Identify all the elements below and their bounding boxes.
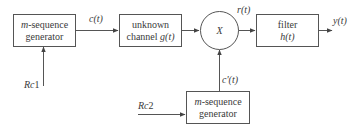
channel-line1: unknown [132, 19, 169, 30]
unknown-channel-block: unknown channel g(t) [120, 15, 182, 47]
multiplier-symbol: X [215, 25, 223, 36]
tx-msequence-generator-block: m-sequence generator [14, 15, 76, 47]
multiplier-node: X [201, 12, 239, 50]
tx-gen-line2: generator [26, 31, 64, 42]
block-diagram: m-sequence generator c(t) unknown channe… [0, 0, 358, 131]
channel-line2: channel g(t) [126, 31, 175, 43]
rc1-label: Rc1 [23, 79, 40, 90]
rx-msequence-generator-block: m-sequence generator [187, 92, 250, 124]
rx-gen-seq: -sequence [202, 96, 243, 107]
rc2-label: Rc2 [137, 100, 154, 111]
tx-gen-seq: -sequence [28, 19, 69, 30]
filter-line2: h(t) [280, 31, 295, 43]
rx-gen-m: m [194, 96, 201, 107]
y-signal-label: y(t) [332, 15, 348, 27]
c-prime-signal-label: c'(t) [222, 74, 239, 86]
svg-text:m-sequence: m-sequence [194, 96, 242, 107]
rx-gen-line2: generator [199, 108, 237, 119]
filter-line1: filter [278, 19, 298, 30]
tx-gen-m: m [21, 19, 28, 30]
c-signal-label: c(t) [89, 13, 104, 25]
r-signal-label: r(t) [237, 4, 251, 16]
svg-text:m-sequence: m-sequence [21, 19, 69, 30]
filter-block: filter h(t) [257, 15, 319, 47]
